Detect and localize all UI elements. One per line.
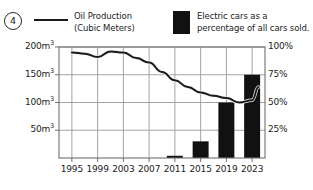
y-axis-right-tick-label: 50% xyxy=(268,97,287,107)
y-axis-left-tick-label: 100m3 xyxy=(8,97,54,107)
x-axis-tick-label: 2023 xyxy=(236,164,268,174)
y-axis-left-tick-label: 50m3 xyxy=(8,124,54,134)
y-axis-right-tick-label: 25% xyxy=(268,124,287,134)
chart-canvas xyxy=(0,0,313,190)
plot-area: 200m3150m3100m350m3 100%75%50%25% 199519… xyxy=(0,0,313,190)
y-axis-left-tick-label: 150m3 xyxy=(8,69,54,79)
chart-bars xyxy=(167,75,260,158)
y-axis-right-tick-label: 75% xyxy=(268,69,287,79)
chart-figure: 4 Oil Production (Cubic Meters) Electric… xyxy=(0,0,313,190)
chart-line xyxy=(72,51,259,102)
y-axis-right-tick-label: 100% xyxy=(268,41,293,51)
y-axis-left-tick-label: 200m3 xyxy=(8,41,54,51)
